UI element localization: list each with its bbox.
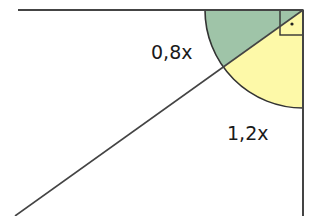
angle-diagram: 0,8x 1,2x xyxy=(0,0,313,216)
lower-angle-label: 1,2x xyxy=(227,122,268,144)
upper-angle-label: 0,8x xyxy=(151,41,192,63)
right-angle-dot xyxy=(290,22,293,25)
